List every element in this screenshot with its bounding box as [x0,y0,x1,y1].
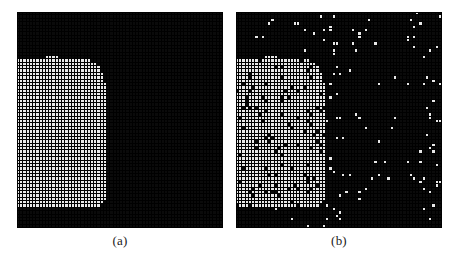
panel-b-caption: (b) [236,233,442,249]
panel-a-caption: (a) [17,233,223,249]
figure-root: (a) (b) [0,0,462,262]
lattice-grid-b [236,12,442,228]
panel-b [236,12,442,228]
lattice-grid-a [17,12,223,228]
panel-a [17,12,223,228]
